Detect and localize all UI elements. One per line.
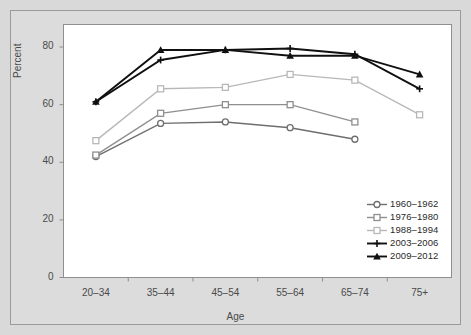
data-point-square <box>352 77 358 83</box>
y-tick-label: 80 <box>28 40 54 51</box>
legend-marker-icon <box>366 223 388 236</box>
data-point-square <box>287 71 293 77</box>
series-line <box>96 122 355 157</box>
x-tick-label: 65–74 <box>329 287 381 298</box>
legend-label: 1960–1962 <box>390 198 438 209</box>
series-1960-1962 <box>93 119 358 160</box>
data-point-square <box>374 215 380 221</box>
data-point-square <box>158 110 164 116</box>
data-point-plus <box>287 45 294 52</box>
legend-label: 2009–2012 <box>390 250 438 261</box>
data-point-square <box>222 102 228 108</box>
data-series-layer <box>92 45 423 159</box>
data-point-square <box>93 152 99 158</box>
legend-item-2003-2006[interactable]: 2003–2006 <box>366 236 458 249</box>
chart-canvas <box>0 0 471 335</box>
y-tick-label: 40 <box>28 155 54 166</box>
legend-marker-icon <box>366 249 388 262</box>
x-axis-title: Age <box>0 311 471 322</box>
data-point-circle <box>222 119 228 125</box>
legend-marker-icon <box>366 197 388 210</box>
data-point-circle <box>287 125 293 131</box>
data-point-circle <box>158 120 164 126</box>
y-axis-title: Percent <box>12 44 23 78</box>
x-tick-label: 20–34 <box>70 287 122 298</box>
legend-item-1976-1980[interactable]: 1976–1980 <box>366 210 458 223</box>
x-tick-marks <box>128 278 387 282</box>
series-2009-2012 <box>92 46 423 105</box>
figure-background: 020406080 20–3435–4445–5455–6465–7475+ P… <box>0 0 471 335</box>
data-point-square <box>222 84 228 90</box>
series-line <box>96 48 420 101</box>
x-tick-label: 35–44 <box>135 287 187 298</box>
legend-label: 1988–1994 <box>390 224 438 235</box>
legend-label: 1976–1980 <box>390 211 438 222</box>
legend-item-1960-1962[interactable]: 1960–1962 <box>366 197 458 210</box>
series-2003-2006 <box>92 45 423 105</box>
chart-legend: 1960–19621976–19801988–19942003–20062009… <box>366 197 458 262</box>
legend-marker-icon <box>366 236 388 249</box>
legend-label: 2003–2006 <box>390 237 438 248</box>
data-point-plus <box>374 240 381 247</box>
y-tick-label: 20 <box>28 213 54 224</box>
series-1976-1980 <box>93 102 358 158</box>
data-point-circle <box>352 136 358 142</box>
data-point-plus <box>416 85 423 92</box>
data-point-square <box>417 112 423 118</box>
y-tick-label: 0 <box>28 271 54 282</box>
legend-marker-icon <box>366 210 388 223</box>
data-point-square <box>374 228 380 234</box>
data-point-square <box>158 86 164 92</box>
data-point-circle <box>374 202 380 208</box>
data-point-square <box>352 119 358 125</box>
series-line <box>96 50 420 102</box>
data-point-square <box>287 102 293 108</box>
legend-item-2009-2012[interactable]: 2009–2012 <box>366 249 458 262</box>
x-tick-label: 75+ <box>394 287 446 298</box>
legend-item-1988-1994[interactable]: 1988–1994 <box>366 223 458 236</box>
x-tick-label: 55–64 <box>264 287 316 298</box>
y-tick-label: 60 <box>28 98 54 109</box>
data-point-square <box>93 138 99 144</box>
y-tick-marks <box>60 47 64 277</box>
series-line <box>96 105 355 155</box>
x-tick-label: 45–54 <box>199 287 251 298</box>
series-line <box>96 74 420 140</box>
